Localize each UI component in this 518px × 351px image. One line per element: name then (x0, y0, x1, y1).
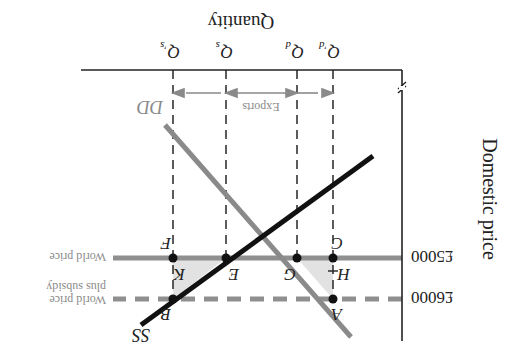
tick-q-d-prime: Q (328, 43, 340, 62)
demand-label: DD (137, 97, 164, 117)
tick-q-s: Q (221, 43, 233, 62)
label-c: C (331, 234, 343, 253)
tick-q-s-sub: s (216, 40, 220, 52)
subsidy-label-line2: plus subsidy (46, 280, 106, 294)
y-axis-label: Domestic price (478, 138, 501, 260)
supply-label: SS (132, 325, 150, 345)
point-a (329, 295, 338, 304)
y-tick-5000: £5000 (411, 247, 454, 266)
x-axis-label: Quantity (207, 12, 274, 33)
exports-arrows (173, 89, 333, 97)
point-c (329, 254, 338, 263)
tick-q-s-prime-sub: ′s (160, 40, 167, 52)
export-subsidy-diagram: £5000 £6000 Domestic price Quantity Q ′d… (0, 0, 518, 351)
y-tick-6000: £6000 (411, 288, 454, 307)
label-f: F (160, 234, 172, 253)
subsidy-label-line1: World price (49, 293, 106, 307)
label-b: B (160, 305, 171, 324)
exports-label: Exports (242, 100, 280, 114)
tick-q-d: Q (292, 43, 304, 62)
tick-q-d-sub: d (285, 40, 291, 52)
point-f (169, 254, 178, 263)
label-e: E (228, 265, 240, 284)
label-g: G (284, 265, 296, 284)
point-b (169, 295, 178, 304)
tick-q-d-prime-sub: ′d (319, 40, 327, 52)
world-price-label: World price (49, 250, 106, 264)
label-h: H (336, 265, 351, 284)
demand-curve (165, 125, 351, 337)
point-g (293, 254, 302, 263)
tick-q-s-prime: Q (168, 43, 180, 62)
point-e (222, 254, 231, 263)
label-k: K (172, 265, 186, 284)
label-a: A (331, 305, 343, 324)
